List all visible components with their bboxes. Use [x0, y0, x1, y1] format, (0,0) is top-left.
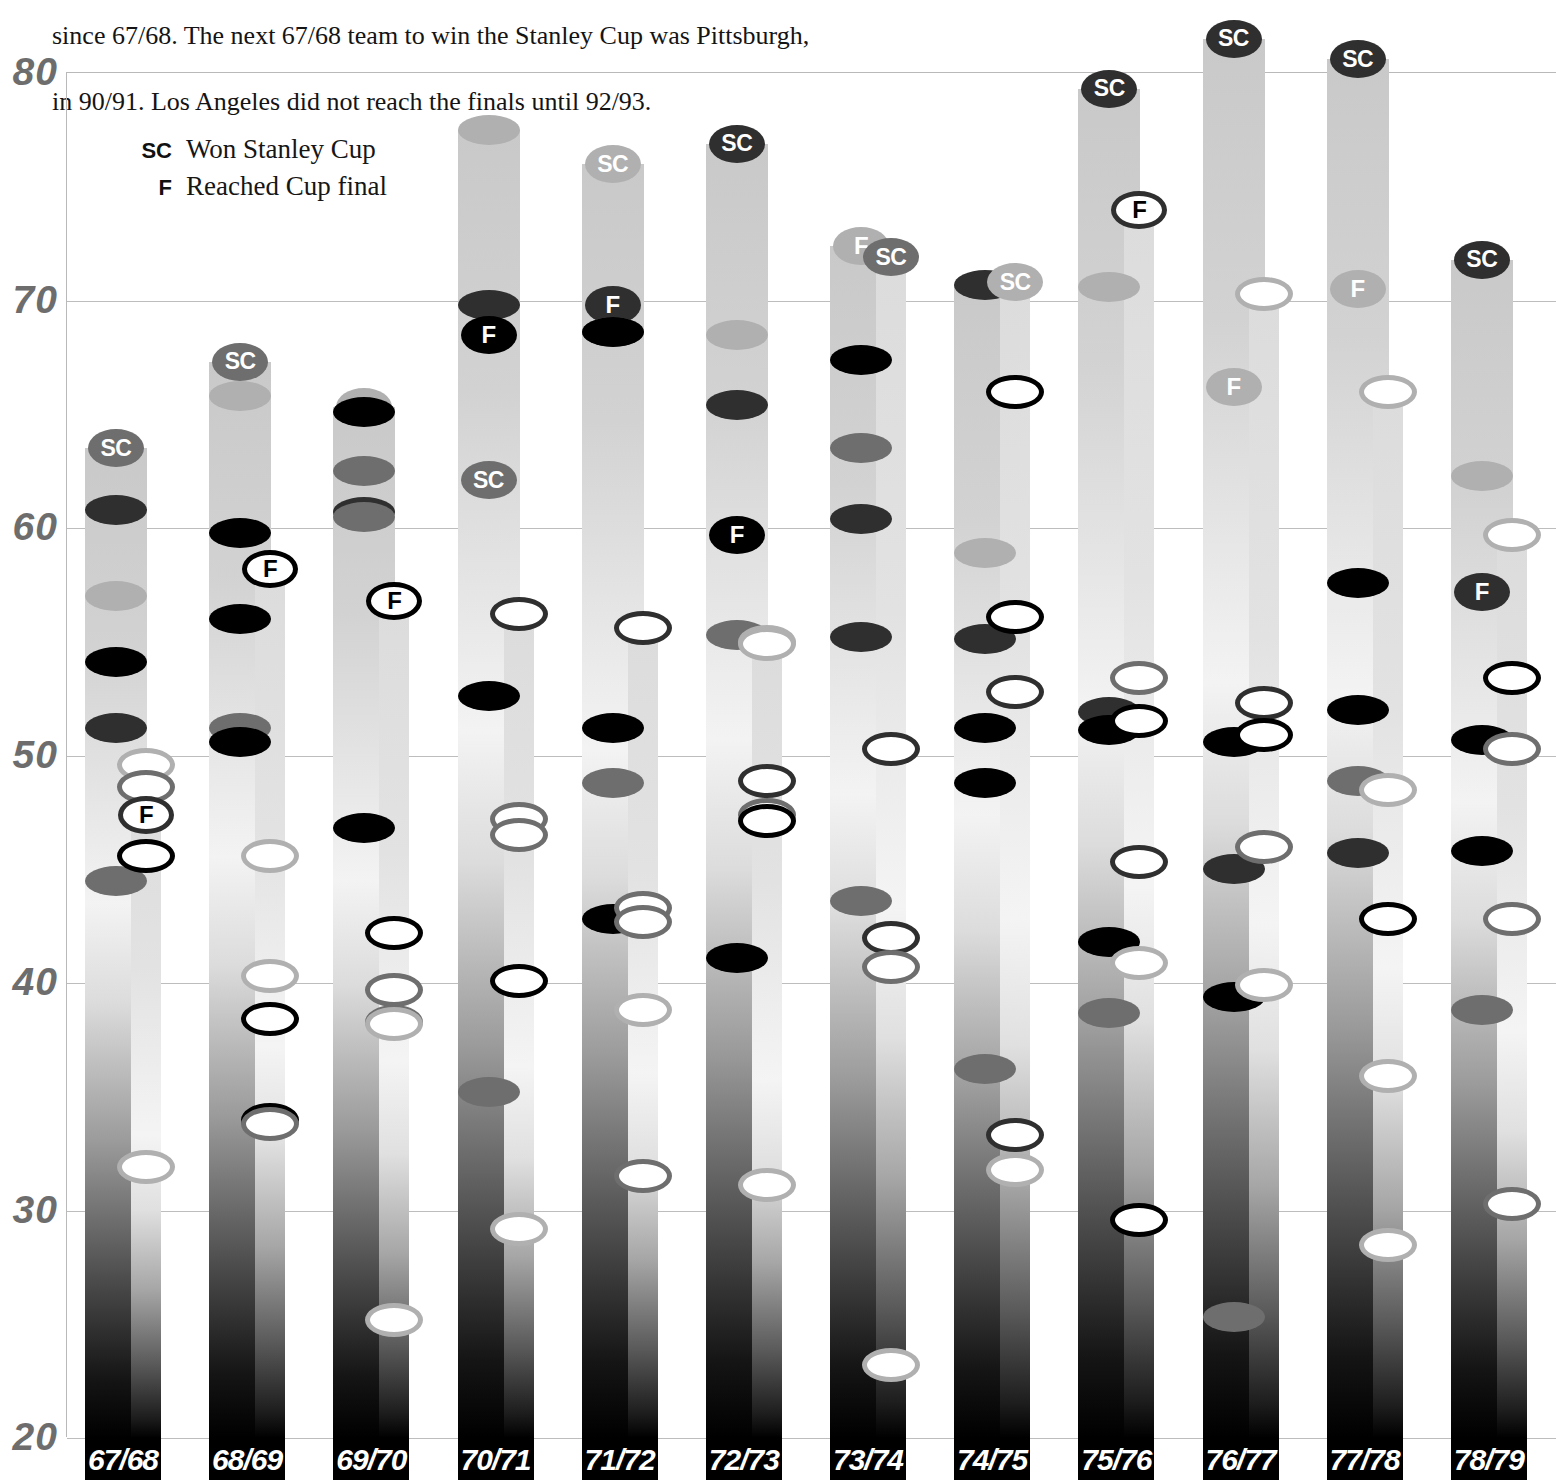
- marker-75-76-c1-1: [1110, 661, 1168, 695]
- marker-75-76-c0-1: [1078, 272, 1140, 302]
- marker-76-77-c0-0-sc: SC: [1206, 20, 1262, 58]
- marker-70-71-c1-0: [490, 597, 548, 631]
- marker-72-73-c0-5: [706, 943, 768, 973]
- marker-70-71-c0-4: [458, 681, 520, 711]
- y-axis-tick-50: 50: [0, 733, 58, 777]
- marker-74-75-c1-0-sc: SC: [987, 263, 1043, 301]
- marker-78-79-c1-3: [1483, 902, 1541, 936]
- marker-77-78-c0-0-sc: SC: [1330, 40, 1386, 78]
- marker-73-74-c0-5: [830, 886, 892, 916]
- marker-78-79-c0-1: [1451, 461, 1513, 491]
- marker-76-77-c1-4: [1235, 968, 1293, 1002]
- marker-68-69-c1-1: [241, 839, 299, 873]
- marker-78-79-c1-4: [1483, 1187, 1541, 1221]
- x-axis-label-68-69: 68/69: [209, 1437, 285, 1480]
- marker-67-68-c1-3: [117, 839, 175, 873]
- marker-78-79-c0-4: [1451, 836, 1513, 866]
- marker-76-77-c1-2: [1235, 718, 1293, 752]
- marker-69-70-c1-1: [365, 916, 423, 950]
- marker-tag-f: F: [123, 801, 169, 829]
- marker-tag-sc: SC: [1081, 70, 1137, 108]
- marker-71-72-c0-0-sc: SC: [585, 145, 641, 183]
- marker-77-78-c0-5: [1327, 838, 1389, 868]
- marker-73-74-c0-2: [830, 433, 892, 463]
- marker-72-73-c0-2: [706, 390, 768, 420]
- marker-77-78-c0-2: [1327, 568, 1389, 598]
- x-axis-label-67-68: 67/68: [85, 1437, 161, 1480]
- marker-72-73-c1-5: [738, 1168, 796, 1202]
- marker-68-69-c1-3: [241, 1002, 299, 1036]
- marker-75-76-c1-0-f: F: [1111, 191, 1167, 229]
- plot-area: SCF67/68SCF68/69SCF69/70FSC70/71SCF71/72…: [66, 72, 1556, 1437]
- marker-73-74-c1-1: [862, 732, 920, 766]
- marker-tag-sc: SC: [1330, 40, 1386, 78]
- marker-78-79-c1-2: [1483, 732, 1541, 766]
- marker-74-75-c1-3: [986, 675, 1044, 709]
- marker-72-73-c0-1: [706, 320, 768, 350]
- marker-67-68-c0-0-sc: SC: [88, 429, 144, 467]
- x-axis-label-71-72: 71/72: [582, 1437, 658, 1480]
- marker-76-77-c1-3: [1235, 830, 1293, 864]
- x-axis-label-69-70: 69/70: [333, 1437, 409, 1480]
- marker-tag-sc: SC: [1454, 241, 1510, 279]
- bar-72-73-col1: [752, 642, 782, 1438]
- legend-key-f: F: [130, 175, 186, 201]
- marker-78-79-c0-2-f: F: [1454, 573, 1510, 611]
- marker-71-72-c1-4: [614, 1159, 672, 1193]
- caption-line-1: since 67/68. The next 67/68 team to win …: [52, 21, 809, 50]
- marker-73-74-c1-4: [862, 1348, 920, 1382]
- x-axis-label-78-79: 78/79: [1451, 1437, 1527, 1480]
- marker-72-73-c1-2: [738, 764, 796, 798]
- marker-tag-sc: SC: [212, 343, 268, 381]
- marker-78-79-c1-0: [1483, 518, 1541, 552]
- marker-tag-f: F: [709, 516, 765, 554]
- marker-70-71-c1-3: [490, 964, 548, 998]
- marker-69-70-c1-0-f: F: [366, 582, 422, 620]
- marker-69-70-c1-4: [365, 1007, 423, 1041]
- marker-72-73-c0-3-f: F: [709, 516, 765, 554]
- marker-70-71-c0-5: [458, 1077, 520, 1107]
- bar-71-72-col1: [628, 628, 658, 1438]
- marker-70-71-c1-2: [490, 818, 548, 852]
- marker-69-70-c0-4: [333, 502, 395, 532]
- bar-70-71-col1: [504, 614, 534, 1438]
- marker-70-71-c1-4: [490, 1212, 548, 1246]
- bar-73-74-col1: [876, 257, 906, 1438]
- marker-72-73-c1-4: [738, 804, 796, 838]
- season-group-74-75: SC74/75: [936, 73, 1060, 1437]
- x-axis-label-73-74: 73/74: [830, 1437, 906, 1480]
- marker-68-69-c1-5: [241, 1107, 299, 1141]
- marker-77-78-c1-4: [1359, 1228, 1417, 1262]
- y-axis-tick-80: 80: [0, 50, 58, 94]
- marker-74-75-c1-1: [986, 375, 1044, 409]
- marker-75-76-c0-5: [1078, 998, 1140, 1028]
- marker-tag-sc: SC: [1206, 20, 1262, 58]
- marker-77-78-c1-1: [1359, 773, 1417, 807]
- x-axis-label-77-78: 77/78: [1327, 1437, 1403, 1480]
- marker-77-78-c1-0: [1359, 375, 1417, 409]
- marker-75-76-c1-3: [1110, 845, 1168, 879]
- marker-78-79-c1-1: [1483, 661, 1541, 695]
- marker-68-69-c1-2: [241, 959, 299, 993]
- marker-74-75-c0-1: [954, 538, 1016, 568]
- marker-68-69-c0-0-sc: SC: [212, 343, 268, 381]
- marker-70-71-c0-2-f: F: [461, 316, 517, 354]
- marker-tag-sc: SC: [461, 461, 517, 499]
- marker-73-74-c1-3: [862, 950, 920, 984]
- x-axis-label-75-76: 75/76: [1078, 1437, 1154, 1480]
- marker-69-70-c0-5: [333, 813, 395, 843]
- x-axis-label-72-73: 72/73: [706, 1437, 782, 1480]
- marker-71-72-c1-3: [614, 993, 672, 1027]
- marker-tag-f: F: [1206, 368, 1262, 406]
- bar-75-76-col1: [1124, 210, 1154, 1439]
- y-axis-tick-20: 20: [0, 1415, 58, 1459]
- marker-67-68-c0-2: [85, 581, 147, 611]
- season-group-67-68: SCF67/68: [67, 73, 191, 1437]
- marker-67-68-c1-2-f: F: [118, 796, 174, 834]
- marker-77-78-c0-3: [1327, 695, 1389, 725]
- marker-70-71-c0-0: [458, 115, 520, 145]
- marker-77-78-c1-2: [1359, 902, 1417, 936]
- marker-67-68-c0-4: [85, 713, 147, 743]
- y-axis-tick-60: 60: [0, 505, 58, 549]
- marker-67-68-c0-1: [85, 495, 147, 525]
